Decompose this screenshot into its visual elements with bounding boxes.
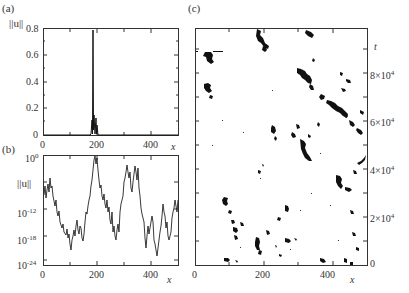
panel-c-turbulent-patches [196,29,366,265]
figure-canvas [0,0,409,293]
panel-c-specks [212,90,339,250]
panel-a-axes [43,29,179,136]
panel-b-curve [44,156,178,256]
panel-c-axes [195,29,368,266]
panel-a-curve [44,30,178,135]
